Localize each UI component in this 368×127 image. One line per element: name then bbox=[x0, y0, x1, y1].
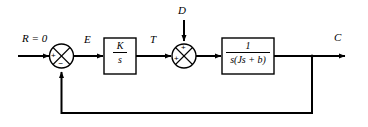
controller-fraction-bar bbox=[113, 52, 127, 53]
plant-transfer-function: 1 s(Js + b) bbox=[222, 40, 274, 65]
plant-numerator: 1 bbox=[222, 40, 274, 51]
disturbance-junction-left-plus-sign: + bbox=[174, 55, 179, 63]
error-signal-label: E bbox=[84, 34, 91, 45]
reference-signal-label: R = 0 bbox=[22, 33, 47, 44]
disturbance-junction-top-plus-sign: + bbox=[181, 44, 186, 52]
controller-transfer-function: K s bbox=[104, 40, 136, 65]
controller-denominator: s bbox=[104, 54, 136, 65]
block-diagram-graphics bbox=[0, 0, 368, 127]
error-junction-minus-sign: − bbox=[59, 60, 64, 68]
torque-signal-label: T bbox=[150, 34, 156, 45]
block-diagram-canvas: R = 0 E T D C + − + + K s 1 s(Js + b) bbox=[0, 0, 368, 127]
plant-fraction-bar bbox=[226, 52, 270, 53]
error-junction-plus-sign: + bbox=[51, 52, 56, 60]
controller-numerator: K bbox=[104, 40, 136, 51]
output-signal-label: C bbox=[334, 32, 341, 43]
plant-denominator: s(Js + b) bbox=[222, 54, 274, 65]
disturbance-signal-label: D bbox=[178, 5, 186, 16]
